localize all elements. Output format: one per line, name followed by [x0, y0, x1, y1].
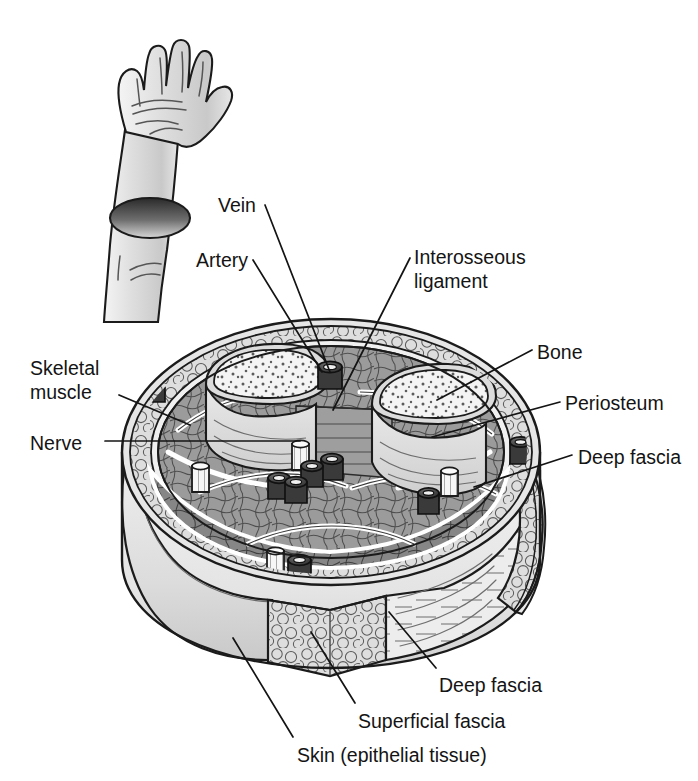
artery: [321, 454, 343, 480]
label-skin: Skin (epithelial tissue): [297, 744, 487, 766]
vein: [285, 477, 307, 503]
label-vein: Vein: [218, 194, 256, 216]
label-interosseous-line1: Interosseous: [414, 246, 526, 268]
label-skeletal-muscle: Skeletal muscle: [30, 357, 105, 403]
anatomy-illustration: Vein Artery Interosseous ligament Bone S…: [0, 0, 698, 781]
nerve: [441, 467, 458, 496]
label-interosseous-line2: ligament: [414, 270, 488, 292]
label-periosteum: Periosteum: [565, 392, 664, 414]
label-deep-fascia-bottom: Deep fascia: [439, 674, 542, 696]
vein: [318, 361, 342, 389]
label-superficial-fascia: Superficial fascia: [358, 710, 506, 732]
label-deep-fascia-right: Deep fascia: [578, 446, 681, 468]
label-nerve: Nerve: [30, 432, 82, 454]
artery: [418, 488, 439, 514]
label-artery: Artery: [196, 249, 248, 271]
label-bone: Bone: [537, 341, 583, 363]
arm-and-hand-illustration: [104, 40, 232, 322]
arm-cross-section-figure: Vein Artery Interosseous ligament Bone S…: [0, 0, 698, 781]
arm-cross-section-cylinder: [122, 319, 545, 676]
label-skeletal-muscle-line1: Skeletal: [30, 357, 99, 379]
nerve: [192, 462, 209, 492]
arm-cut-surface: [110, 198, 190, 238]
label-skeletal-muscle-line2: muscle: [30, 381, 92, 403]
label-interosseous-ligament: Interosseous ligament: [414, 246, 531, 292]
